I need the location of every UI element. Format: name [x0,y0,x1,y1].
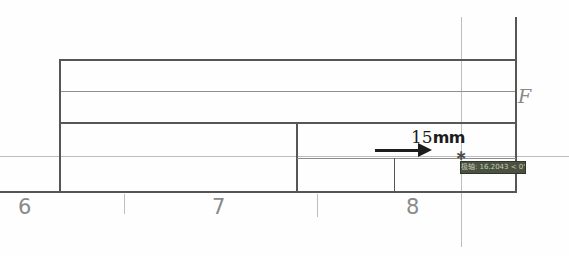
panel-divider-right [394,158,395,193]
ruler-number-7: 7 [212,197,225,218]
right-arrow-icon [418,143,432,157]
ruler-baseline [0,191,517,193]
ruler-half-tick-2 [317,194,318,217]
ruler-half-tick-1 [124,194,125,214]
rect-mid-light-line [60,91,517,92]
measurement-tooltip: 极轴: 16.2043 < 0° [460,161,526,174]
right-arrow-shaft [375,149,419,152]
rect-left-edge [59,59,61,193]
ruler-number-6: 6 [18,197,31,218]
panel-sub-line [297,158,516,159]
rect-top-edge [60,59,517,61]
cad-drawing-canvas[interactable]: 6 7 8 F 15mm ∗ 极轴: 16.2043 < 0° [0,0,569,256]
ruler-number-8: 8 [406,197,419,218]
rect-mid-dark-line [60,122,517,124]
section-label-f: F [518,86,531,106]
dimension-unit: mm [433,128,465,147]
crosshair-horizontal-line [0,156,569,157]
